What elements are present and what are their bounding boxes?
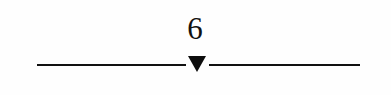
axis-line-left-segment <box>37 64 186 66</box>
marker-value-label: 6 <box>0 12 391 46</box>
number-line-figure: 6 <box>0 0 391 95</box>
marker-value-text: 6 <box>187 11 203 46</box>
triangle-down-icon <box>188 56 206 72</box>
axis-line-right-segment <box>209 64 360 66</box>
